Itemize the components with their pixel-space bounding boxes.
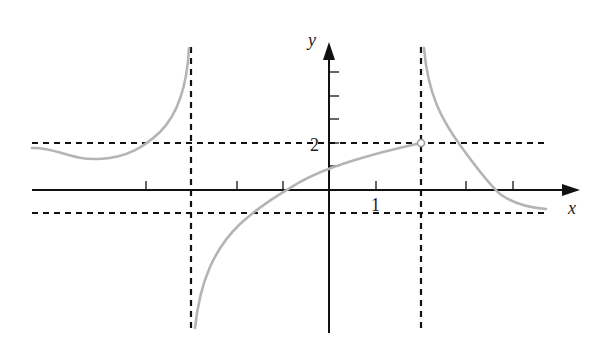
y-tick-label-2: 2	[310, 135, 319, 155]
y-axis-label: y	[306, 30, 316, 50]
function-graph: y x 2 1	[0, 0, 605, 355]
y-axis-arrow-icon	[323, 42, 335, 60]
middle-branch-curve	[195, 143, 421, 328]
open-point-marker	[418, 140, 425, 147]
y-ticks	[329, 72, 339, 166]
x-axis-label: x	[567, 198, 576, 218]
axes	[32, 56, 568, 333]
curves	[32, 48, 546, 328]
right-branch-curve	[424, 48, 546, 209]
x-tick-label-1: 1	[371, 195, 380, 215]
x-axis-arrow-icon	[562, 184, 580, 196]
